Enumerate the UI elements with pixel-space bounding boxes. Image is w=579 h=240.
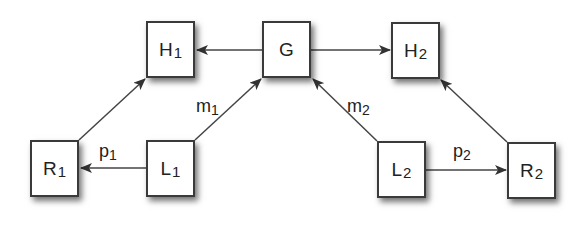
node-h2: H2	[391, 22, 440, 79]
node-r1-subscript: 1	[58, 163, 66, 180]
node-h1-subscript: 1	[174, 44, 182, 61]
node-l2: L2	[377, 141, 426, 198]
edge-label-m2-sub: 2	[362, 102, 370, 118]
edge-label-p2-sub: 2	[463, 147, 471, 163]
edge-label-m2-base: m	[347, 96, 362, 116]
node-l2-label: L	[392, 159, 403, 181]
node-l1-label: L	[161, 158, 172, 180]
node-r2: R2	[507, 142, 556, 199]
edge-label-p1-base: p	[99, 141, 109, 161]
node-r1: R1	[30, 140, 79, 197]
node-h2-subscript: 2	[419, 45, 427, 62]
edge-label-m1: m1	[196, 96, 219, 117]
node-h1-label: H	[159, 39, 173, 61]
edge-label-p2: p2	[453, 141, 471, 162]
node-g-label: G	[279, 39, 294, 61]
edge-label-p1-sub: 1	[109, 147, 117, 163]
node-r2-subscript: 2	[535, 165, 543, 182]
node-h2-label: H	[404, 40, 418, 62]
edge-label-m2: m2	[347, 96, 370, 117]
edge-r1-to-h1	[79, 79, 145, 140]
node-r1-label: R	[43, 158, 57, 180]
node-l2-subscript: 2	[403, 164, 411, 181]
edge-label-p1: p1	[99, 141, 117, 162]
node-h1: H1	[146, 21, 195, 78]
edge-label-m1-sub: 1	[211, 102, 219, 118]
node-l1: L1	[146, 140, 195, 197]
node-r2-label: R	[520, 160, 534, 182]
edge-r2-to-h2	[441, 80, 507, 142]
edge-label-p2-base: p	[453, 141, 463, 161]
edge-label-m1-base: m	[196, 96, 211, 116]
node-l1-subscript: 1	[172, 163, 180, 180]
node-g: G	[262, 21, 311, 78]
